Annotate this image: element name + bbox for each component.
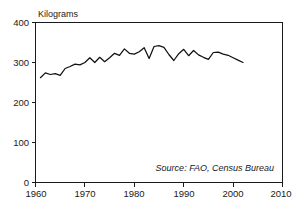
y-tick-label-400: 400 [13,17,29,28]
y-tick-label-0: 0 [24,177,29,188]
data-series-line [40,46,243,78]
chart-figure: 400 300 200 100 0 Kilograms 1960 1970 19… [0,0,300,206]
x-tick-label-2010: 2010 [270,188,291,199]
x-tick-label-1980: 1980 [123,188,144,199]
y-tick-label-100: 100 [13,137,29,148]
x-tick-label-1990: 1990 [173,188,194,199]
source-note: Source: FAO, Census Bureau [156,163,274,173]
plot-frame [36,23,283,183]
x-tick-label-2000: 2000 [222,188,243,199]
y-axis-title: Kilograms [38,9,79,19]
line-chart: 400 300 200 100 0 Kilograms 1960 1970 19… [0,0,300,206]
y-tick-label-200: 200 [13,97,29,108]
x-tick-label-1960: 1960 [25,188,46,199]
y-axis-ticks [32,23,36,183]
y-tick-label-300: 300 [13,57,29,68]
x-tick-label-1970: 1970 [74,188,95,199]
x-axis-ticks [36,183,283,188]
